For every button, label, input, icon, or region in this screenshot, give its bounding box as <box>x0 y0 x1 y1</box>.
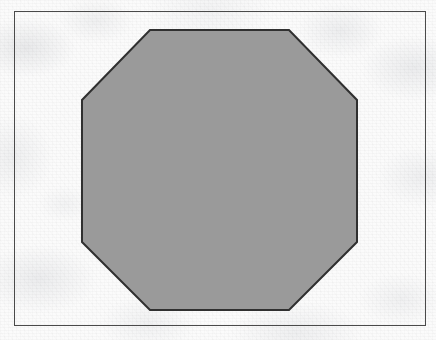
figure-canvas: Regular octagon filled with gray on a bo… <box>0 0 436 340</box>
octagon-shape <box>82 30 357 310</box>
octagon-figure-svg <box>0 0 436 340</box>
